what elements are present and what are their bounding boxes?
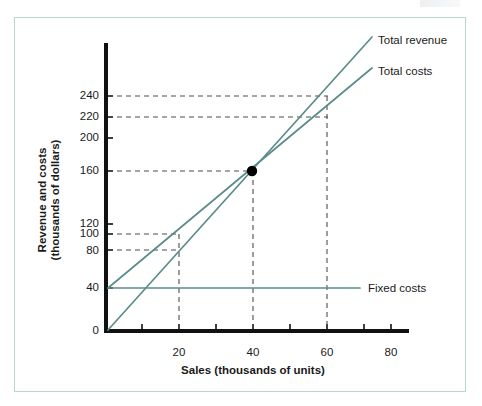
x-axis-title: Sales (thousands of units): [181, 364, 325, 376]
series-label-total-revenue: Total revenue: [378, 34, 447, 46]
x-tick-label-60: 60: [321, 346, 334, 358]
y-tick-label-80: 80: [86, 244, 99, 256]
x-tick-labels-group: 20 40 60 80: [173, 346, 398, 358]
y-tick-label-240: 240: [80, 89, 99, 101]
x-tick-label-80: 80: [385, 346, 398, 358]
y-tick-label-200: 200: [80, 131, 99, 143]
x-tick-label-20: 20: [173, 346, 186, 358]
y-tick-label-0: 0: [93, 324, 99, 336]
y-tick-label-160: 160: [80, 164, 99, 176]
y-tick-labels-group: 240 220 200 160 120 100 80 40 0: [80, 89, 99, 336]
data-series-group: [108, 37, 372, 330]
break-even-chart-figure: Total revenue Total costs Fixed costs 24…: [0, 0, 482, 406]
series-label-fixed-costs: Fixed costs: [368, 282, 426, 294]
series-total-costs-line: [108, 68, 372, 288]
x-tick-label-40: 40: [247, 346, 260, 358]
y-tick-label-100: 100: [80, 227, 99, 239]
y-axis-title-line1: Revenue and costs: [36, 148, 48, 253]
series-label-total-costs: Total costs: [378, 65, 433, 77]
series-total-revenue-line: [108, 37, 372, 330]
y-axis-title-line2: (thousands of dollars): [49, 139, 61, 260]
chart-canvas: Total revenue Total costs Fixed costs 24…: [0, 0, 482, 406]
y-axis-title: Revenue and costs (thousands of dollars): [36, 139, 61, 260]
y-tick-label-220: 220: [80, 110, 99, 122]
break-even-point-marker: [247, 166, 257, 176]
y-tick-label-40: 40: [86, 281, 99, 293]
